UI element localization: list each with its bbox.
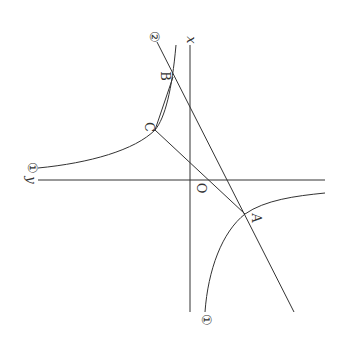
svg-text:C: C — [142, 122, 157, 132]
svg-text:②: ② — [147, 31, 162, 43]
svg-text:A: A — [249, 212, 264, 223]
origin-label: O — [194, 183, 209, 194]
svg-text:y: y — [24, 175, 39, 184]
svg-text:①: ① — [25, 162, 40, 174]
svg-text:①: ① — [199, 314, 214, 326]
svg-text:B: B — [158, 71, 173, 81]
point-a-label: A — [249, 212, 264, 223]
diagram-svg: x y O ① ① ② B C A — [0, 0, 350, 343]
segment-cb — [155, 77, 173, 130]
y-axis-label: y — [24, 175, 39, 184]
curve-label-top: ① — [25, 162, 40, 174]
curve-branch-lower — [205, 193, 325, 312]
line-2 — [157, 42, 294, 312]
segment-ca — [155, 130, 245, 214]
point-b-label: B — [158, 71, 173, 81]
curve-label-bottom: ① — [199, 314, 214, 326]
svg-text:x: x — [184, 36, 199, 44]
x-axis-label: x — [184, 36, 199, 44]
diagram-canvas: x y O ① ① ② B C A — [0, 0, 350, 343]
svg-text:O: O — [194, 183, 209, 194]
curve-branch-upper — [38, 45, 176, 168]
point-c-label: C — [142, 122, 157, 132]
line-label: ② — [147, 31, 162, 43]
